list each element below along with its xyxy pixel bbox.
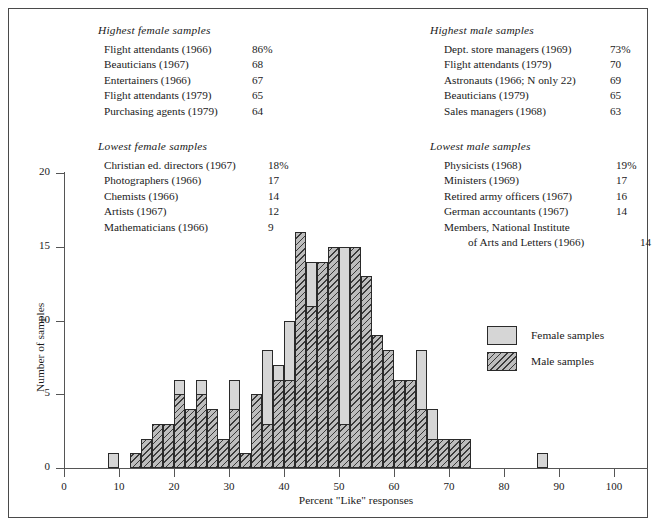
x-tick xyxy=(449,468,450,477)
figure-container: Highest female samples Flight attendants… xyxy=(0,0,656,526)
legend-item-female: Female samples xyxy=(487,322,604,348)
x-tick-label: 0 xyxy=(44,480,84,492)
bar-male xyxy=(416,409,427,468)
x-tick-label: 30 xyxy=(209,480,249,492)
bar-male xyxy=(438,439,449,469)
bar-male xyxy=(383,350,394,468)
y-axis-label: Number of samples xyxy=(34,303,46,392)
bar-male xyxy=(141,439,152,469)
x-tick-label: 100 xyxy=(594,480,634,492)
bar-male xyxy=(185,409,196,468)
legend-label: Male samples xyxy=(531,355,594,367)
x-tick xyxy=(284,468,285,477)
bar-male xyxy=(218,439,229,469)
bar-male xyxy=(273,380,284,469)
bar-male xyxy=(240,453,251,468)
legend-swatch-female-icon xyxy=(487,326,517,345)
legend-item-male: Male samples xyxy=(487,348,604,374)
histogram-plot: 05101520 0102030405060708090100 Number o… xyxy=(0,0,656,526)
x-tick xyxy=(64,468,65,477)
bar-male xyxy=(460,439,471,469)
x-tick-label: 60 xyxy=(374,480,414,492)
bar-male xyxy=(328,247,339,468)
bar-male xyxy=(405,380,416,469)
y-tick-label: 20 xyxy=(16,165,50,177)
bar-male xyxy=(163,424,174,468)
bar-male xyxy=(251,394,262,468)
x-tick xyxy=(174,468,175,477)
x-tick xyxy=(614,468,615,477)
bar-male xyxy=(262,424,273,468)
legend-swatch-male-icon xyxy=(487,352,517,371)
bar-male xyxy=(152,424,163,468)
x-tick-label: 40 xyxy=(264,480,304,492)
x-tick-label: 50 xyxy=(319,480,359,492)
x-tick-label: 10 xyxy=(99,480,139,492)
bar-male xyxy=(229,409,240,468)
bar-male xyxy=(174,394,185,468)
bar-female xyxy=(537,453,548,468)
bar-male xyxy=(317,262,328,469)
x-tick xyxy=(559,468,560,477)
x-tick-label: 20 xyxy=(154,480,194,492)
x-tick xyxy=(119,468,120,477)
legend-label: Female samples xyxy=(531,329,604,341)
x-tick-label: 80 xyxy=(484,480,524,492)
y-tick xyxy=(56,394,65,395)
bar-male xyxy=(372,335,383,468)
y-tick-label: 0 xyxy=(16,460,50,472)
y-tick xyxy=(56,247,65,248)
x-tick xyxy=(229,468,230,477)
x-tick xyxy=(394,468,395,477)
y-tick xyxy=(56,321,65,322)
legend: Female samples Male samples xyxy=(487,322,604,374)
bar-male xyxy=(339,424,350,468)
x-tick-label: 90 xyxy=(539,480,579,492)
bar-male xyxy=(295,232,306,468)
bar-male xyxy=(284,380,295,469)
x-axis-label: Percent "Like" responses xyxy=(256,494,456,506)
bar-male xyxy=(196,394,207,468)
bar-male xyxy=(394,380,405,469)
y-tick xyxy=(56,173,65,174)
bar-male xyxy=(130,453,141,468)
x-tick xyxy=(504,468,505,477)
bar-male xyxy=(306,306,317,468)
bar-male xyxy=(361,276,372,468)
y-tick-label: 15 xyxy=(16,239,50,251)
bar-male xyxy=(350,247,361,468)
bar-male xyxy=(449,439,460,469)
bar-female xyxy=(108,453,119,468)
x-tick-label: 70 xyxy=(429,480,469,492)
bar-male xyxy=(427,439,438,469)
x-tick xyxy=(339,468,340,477)
bar-male xyxy=(207,409,218,468)
